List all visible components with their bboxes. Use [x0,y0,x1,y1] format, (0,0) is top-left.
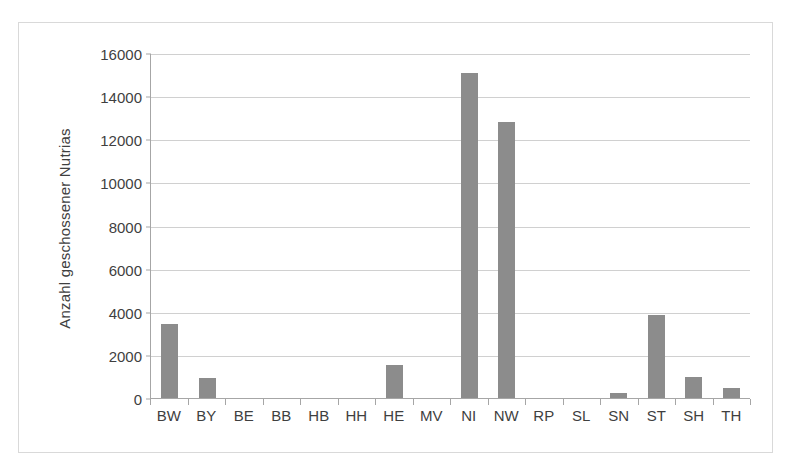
x-tick-mark [450,399,451,405]
bar-slot [151,54,188,398]
x-tick-mark [750,399,751,405]
x-tick-mark [563,399,564,405]
bar-slot [563,54,600,398]
x-tick-label-bw: BW [150,407,188,433]
x-tick-label-st: ST [638,407,676,433]
bar-sn[interactable] [610,393,627,398]
x-tick-label-sn: SN [600,407,638,433]
bar-slot [713,54,750,398]
x-tick-mark [413,399,414,405]
x-tick-mark [375,399,376,405]
x-tick-mark [263,399,264,405]
x-axis-ticks [150,399,750,406]
x-axis-labels: BWBYBEBBHBHHHEMVNINWRPSLSNSTSHTH [150,407,750,433]
bar-slot [600,54,637,398]
x-tick-mark [300,399,301,405]
x-tick-label-sh: SH [675,407,713,433]
bar-slot [188,54,225,398]
y-tick-label: 2000 [109,347,142,364]
x-tick-label-be: BE [225,407,263,433]
y-tick-label: 4000 [109,304,142,321]
x-tick-mark [638,399,639,405]
bar-slot [338,54,375,398]
x-tick-mark [600,399,601,405]
bar-slot [301,54,338,398]
bar-slot [413,54,450,398]
x-tick-label-sl: SL [563,407,601,433]
x-tick-mark [675,399,676,405]
bar-th[interactable] [723,388,740,398]
y-tick-label: 16000 [100,46,142,63]
bar-by[interactable] [199,378,216,398]
x-tick-label-mv: MV [413,407,451,433]
x-tick-label-hh: HH [338,407,376,433]
x-tick-label-nw: NW [488,407,526,433]
bar-slot [226,54,263,398]
bar-sh[interactable] [685,377,702,398]
y-tick-label: 0 [134,391,142,408]
bar-slot [675,54,712,398]
y-axis-title: Anzahl geschossener Nutrias [49,56,79,401]
x-tick-label-hb: HB [300,407,338,433]
y-tick-label: 6000 [109,261,142,278]
x-tick-label-he: HE [375,407,413,433]
bar-he[interactable] [386,365,403,398]
bar-slot [451,54,488,398]
x-tick-mark [225,399,226,405]
chart-frame: Anzahl geschossener Nutrias 020004000600… [18,22,773,453]
x-tick-label-by: BY [188,407,226,433]
bar-slot [376,54,413,398]
bar-st[interactable] [648,315,665,398]
x-tick-label-bb: BB [263,407,301,433]
bar-slot [488,54,525,398]
bar-nw[interactable] [498,122,515,398]
y-tick-label: 8000 [109,218,142,235]
bars-group [151,54,750,398]
bar-bw[interactable] [161,324,178,398]
x-tick-label-th: TH [713,407,751,433]
bar-slot [525,54,562,398]
x-tick-mark [188,399,189,405]
x-tick-mark [150,399,151,405]
bar-slot [638,54,675,398]
x-tick-label-rp: RP [525,407,563,433]
x-tick-mark [338,399,339,405]
y-tick-label: 14000 [100,89,142,106]
bar-ni[interactable] [461,73,478,398]
x-tick-label-ni: NI [450,407,488,433]
x-tick-mark [713,399,714,405]
plot-area: 0200040006000800010000120001400016000 [150,54,750,399]
y-tick-label: 12000 [100,132,142,149]
bar-slot [263,54,300,398]
x-tick-mark [525,399,526,405]
y-tick-label: 10000 [100,175,142,192]
x-tick-mark [488,399,489,405]
